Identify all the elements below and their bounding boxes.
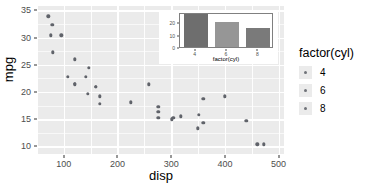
legend-item-6[interactable]: 6	[299, 83, 365, 98]
x-tick-mark	[224, 155, 225, 158]
gridline-horizontal-minor	[38, 133, 284, 134]
scatter-point	[59, 34, 62, 37]
inset-bar-panel	[179, 13, 273, 48]
y-tick-mark	[34, 37, 37, 38]
legend-item-8[interactable]: 8	[299, 101, 365, 116]
y-tick-mark	[34, 119, 37, 120]
y-tick-mark	[34, 91, 37, 92]
scatter-point	[196, 127, 199, 130]
scatter-point	[262, 143, 265, 146]
legend-key-swatch	[299, 66, 312, 79]
y-tick-mark	[34, 146, 37, 147]
legend: factor(cyl) 468	[299, 46, 365, 119]
x-tick-mark	[117, 155, 118, 158]
legend-item-4[interactable]: 4	[299, 65, 365, 80]
scatter-point	[51, 23, 54, 26]
scatter-point	[202, 121, 205, 124]
x-axis-title: disp	[38, 168, 284, 183]
y-axis-title: mpg	[1, 40, 16, 100]
scatter-point	[157, 110, 160, 113]
y-tick-label: 10	[21, 141, 31, 151]
legend-point-icon	[304, 71, 307, 74]
gridline-horizontal	[38, 92, 284, 93]
scatter-point	[129, 101, 132, 104]
gridline-horizontal	[38, 65, 284, 66]
gridline-vertical-minor	[91, 6, 92, 154]
y-tick-label: 15	[21, 114, 31, 124]
inset-bar	[184, 14, 208, 47]
scatter-point	[197, 113, 200, 116]
legend-label: 8	[320, 103, 326, 114]
legend-items: 468	[299, 65, 365, 116]
plot-root: 101520253035 100200300400500 disp mpg 01…	[0, 0, 367, 189]
inset-bar	[215, 22, 239, 47]
inset-y-tick-label: 20	[169, 20, 175, 26]
gridline-vertical	[64, 6, 65, 154]
y-tick-mark	[34, 64, 37, 65]
inset-y-tick-mark	[177, 35, 179, 36]
scatter-point	[202, 97, 205, 100]
scatter-point	[47, 15, 50, 18]
scatter-point	[94, 85, 97, 88]
scatter-point	[86, 92, 89, 95]
scatter-point	[49, 34, 52, 37]
inset-bar	[246, 28, 270, 47]
gridline-horizontal-minor	[38, 78, 284, 79]
scatter-point	[73, 83, 76, 86]
legend-label: 4	[320, 67, 326, 78]
legend-point-icon	[304, 107, 307, 110]
inset-y-tick-mark	[177, 48, 179, 49]
y-tick-label: 35	[21, 5, 31, 15]
x-tick-mark	[63, 155, 64, 158]
inset-y-tick-mark	[177, 23, 179, 24]
gridline-vertical	[279, 6, 280, 154]
inset-x-axis-title: factor(cyl)	[179, 56, 273, 62]
legend-key-swatch	[299, 84, 312, 97]
legend-title: factor(cyl)	[299, 46, 365, 60]
scatter-point	[179, 115, 182, 118]
inset-y-tick-label: 10	[169, 33, 175, 39]
scatter-point	[157, 105, 160, 108]
y-tick-mark	[34, 10, 37, 11]
scatter-point	[245, 119, 248, 122]
y-tick-label: 25	[21, 60, 31, 70]
scatter-point	[98, 95, 101, 98]
scatter-point	[147, 83, 150, 86]
inset-x-tick-mark	[257, 49, 258, 51]
inset-x-tick-mark	[194, 49, 195, 51]
x-tick-mark	[278, 155, 279, 158]
inset-x-tick-mark	[226, 49, 227, 51]
legend-point-icon	[304, 89, 307, 92]
gridline-horizontal	[38, 146, 284, 147]
inset-y-tick-label: 0	[172, 45, 175, 51]
scatter-point	[255, 143, 258, 146]
legend-key-swatch	[299, 102, 312, 115]
gridline-vertical-minor	[144, 6, 145, 154]
gridline-horizontal-minor	[38, 106, 284, 107]
scatter-point	[73, 58, 76, 61]
y-tick-label: 20	[21, 87, 31, 97]
legend-label: 6	[320, 85, 326, 96]
x-tick-mark	[171, 155, 172, 158]
gridline-vertical	[117, 6, 118, 154]
scatter-point	[51, 51, 54, 54]
y-tick-label: 30	[21, 33, 31, 43]
inset-bar-chart: 01020468 factor(cyl)	[159, 11, 278, 64]
